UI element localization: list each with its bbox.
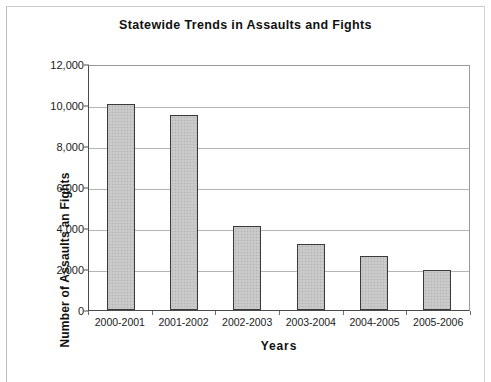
bar-slot: [89, 66, 152, 310]
x-axis-tick-label: 2004-2005: [343, 316, 407, 328]
x-axis-tick-label: 2000-2001: [88, 316, 152, 328]
y-axis-tick-label: 8,000: [26, 142, 84, 153]
x-axis-tick-mark: [406, 311, 407, 315]
bar: [170, 115, 198, 310]
x-axis-tick-label: 2005-2006: [406, 316, 470, 328]
x-axis-tick-mark: [470, 311, 471, 315]
x-axis-tick-mark: [343, 311, 344, 315]
bars-layer: [89, 66, 469, 310]
x-axis-tick-label: 2003-2004: [279, 316, 343, 328]
y-axis-title: Number of Assaults an Fights: [58, 140, 72, 380]
bar: [423, 270, 451, 310]
bar-slot: [152, 66, 215, 310]
x-axis-tick-mark: [152, 311, 153, 315]
chart-title: Statewide Trends in Assaults and Fights: [0, 18, 491, 32]
y-axis-tick-group: Number of Assaults an Fights 02,0004,000…: [22, 65, 84, 311]
x-axis-tick-label: 2001-2002: [152, 316, 216, 328]
bar-slot: [342, 66, 405, 310]
bar-slot: [406, 66, 469, 310]
y-axis-tick-label: 6,000: [26, 183, 84, 194]
x-axis-tick-mark: [215, 311, 216, 315]
x-axis-tick-label: 2002-2003: [215, 316, 279, 328]
y-axis-tick-label: 0: [26, 306, 84, 317]
y-axis-tick-label: 12,000: [26, 60, 84, 71]
bar: [360, 256, 388, 310]
x-axis-title: Years: [88, 339, 470, 353]
y-axis-tick-label: 10,000: [26, 101, 84, 112]
bar-slot: [279, 66, 342, 310]
y-axis-tick-label: 2,000: [26, 265, 84, 276]
bar: [107, 104, 135, 310]
bar: [233, 226, 261, 310]
bar: [297, 244, 325, 310]
y-axis-tick-label: 4,000: [26, 224, 84, 235]
plot-area: [88, 65, 470, 311]
bar-slot: [216, 66, 279, 310]
x-axis-tick-mark: [88, 311, 89, 315]
x-axis-tick-mark: [279, 311, 280, 315]
x-axis-tick-labels: 2000-20012001-20022002-20032003-20042004…: [88, 316, 470, 328]
